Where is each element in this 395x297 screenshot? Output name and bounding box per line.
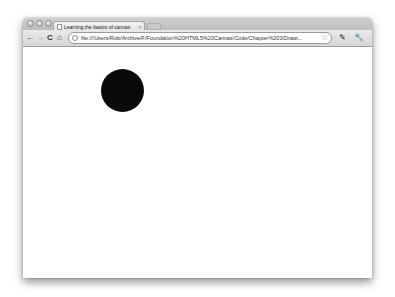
browser-window: Learning the basics of canvas × ← → C ⌂ … — [23, 18, 372, 278]
url-text[interactable]: file:///Users/Rob/Archive/F/Foundation%2… — [81, 35, 321, 41]
browser-toolbar: ← → C ⌂ file:///Users/Rob/Archive/F/Foun… — [23, 30, 372, 47]
reload-icon[interactable]: C — [47, 33, 53, 43]
title-bar: Learning the basics of canvas × — [23, 18, 372, 30]
back-arrow-icon[interactable]: ← — [26, 33, 34, 43]
globe-icon — [72, 35, 78, 41]
page-canvas — [23, 47, 372, 278]
tab-title: Learning the basics of canvas — [64, 24, 138, 30]
page-menu-icon[interactable]: ✎ — [339, 33, 346, 43]
new-tab-button[interactable] — [147, 23, 161, 30]
close-window-button[interactable] — [27, 20, 34, 27]
zoom-window-button[interactable] — [45, 20, 52, 27]
tab-close-icon[interactable]: × — [138, 24, 142, 30]
home-icon[interactable]: ⌂ — [57, 33, 62, 43]
window-controls — [27, 20, 52, 27]
forward-arrow-icon[interactable]: → — [36, 33, 44, 43]
minimize-window-button[interactable] — [36, 20, 43, 27]
page-icon — [57, 24, 62, 30]
wrench-icon[interactable]: 🔧 — [354, 33, 364, 43]
star-icon[interactable]: ☆ — [321, 34, 328, 42]
black-circle — [101, 69, 144, 112]
address-bar[interactable]: file:///Users/Rob/Archive/F/Foundation%2… — [68, 32, 332, 44]
